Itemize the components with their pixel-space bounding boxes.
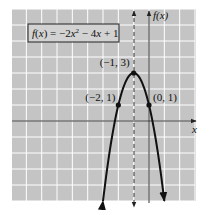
parabola-chart: x f(x) f(x) = −2x2 − 4x + 1 (−1, 3)(−2, …: [0, 0, 211, 215]
point-marker: [146, 102, 151, 107]
point-label: (−1, 3): [100, 56, 130, 69]
point-marker: [131, 70, 136, 75]
x-axis-label: x: [191, 123, 197, 135]
fn-a: −2: [59, 27, 71, 39]
svg-text:f(x) = −2x2 − 4x + 1: f(x) = −2x2 − 4x + 1: [32, 27, 118, 40]
point-label: (0, 1): [153, 91, 177, 104]
point-label: (−2, 1): [85, 91, 115, 104]
y-axis-label: f(x): [153, 9, 169, 22]
fn-e: + 1: [101, 27, 118, 39]
fn-c: − 4: [79, 27, 97, 39]
function-label-box: f(x) = −2x2 − 4x + 1: [28, 24, 119, 42]
point-marker: [116, 102, 121, 107]
